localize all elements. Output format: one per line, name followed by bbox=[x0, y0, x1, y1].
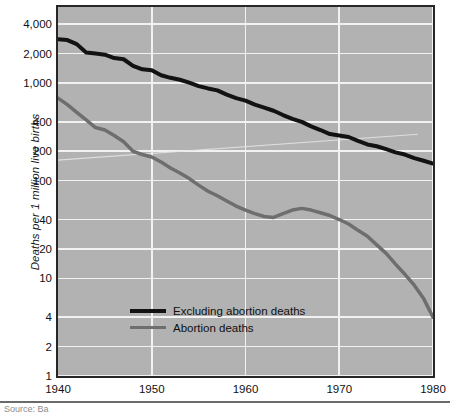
y-tick-label: 1 bbox=[46, 370, 52, 382]
y-tick-label: 2,000 bbox=[23, 48, 52, 60]
y-tick-label: 40 bbox=[39, 214, 52, 226]
x-tick-label: 1950 bbox=[139, 383, 165, 395]
legend-label-abortion-deaths: Abortion deaths bbox=[173, 322, 254, 334]
legend-item-excluding-abortion-deaths: Excluding abortion deaths bbox=[130, 302, 350, 319]
chart-figure: Deaths per 1 million live births 1241020… bbox=[0, 0, 450, 413]
source-divider bbox=[0, 401, 450, 403]
y-tick-label: 4 bbox=[46, 311, 52, 323]
legend-swatch-gray-line bbox=[130, 326, 166, 329]
plot-area: Excluding abortion deaths Abortion death… bbox=[56, 5, 435, 378]
line-abortion-deaths bbox=[58, 98, 433, 317]
legend-label-excluding-abortion-deaths: Excluding abortion deaths bbox=[173, 305, 305, 317]
legend-swatch-black-line bbox=[130, 309, 166, 313]
legend-item-abortion-deaths: Abortion deaths bbox=[130, 319, 350, 336]
x-tick-label: 1980 bbox=[420, 383, 446, 395]
y-tick-label: 20 bbox=[39, 243, 52, 255]
line-excluding-abortion-deaths bbox=[58, 39, 433, 163]
y-tick-label: 4,000 bbox=[23, 18, 52, 30]
chart-legend: Excluding abortion deaths Abortion death… bbox=[130, 302, 350, 336]
x-tick-label: 1960 bbox=[233, 383, 259, 395]
y-axis-title: Deaths per 1 million live births bbox=[29, 62, 41, 322]
source-caption: Source: Ba bbox=[4, 404, 444, 413]
y-tick-label: 2 bbox=[46, 341, 52, 353]
x-tick-label: 1940 bbox=[45, 383, 71, 395]
y-tick-label: 10 bbox=[39, 272, 52, 284]
x-tick-label: 1970 bbox=[326, 383, 352, 395]
